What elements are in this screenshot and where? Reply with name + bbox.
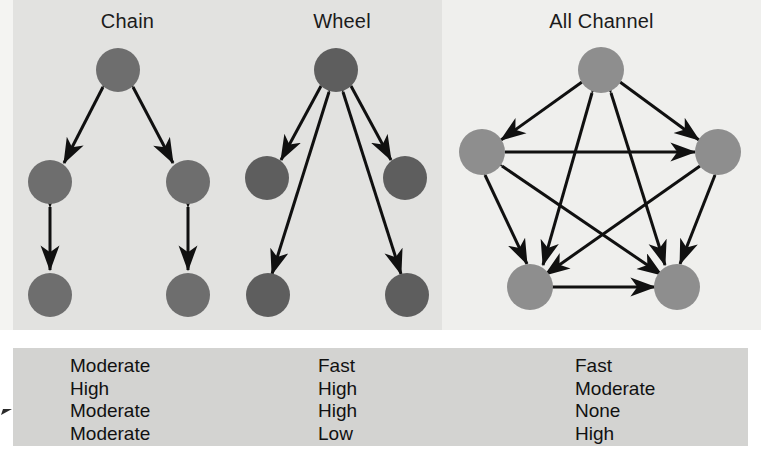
- figure-root: Chain Wheel All Channel: [0, 0, 761, 456]
- wheel-edges: [272, 86, 401, 274]
- diagram-band: Chain Wheel All Channel: [0, 0, 761, 330]
- chain-node-bottom-right: [166, 273, 210, 317]
- chain-node-bottom-left: [28, 273, 72, 317]
- criteria-cell: Moderate: [70, 355, 150, 378]
- chain-nodes: [28, 48, 210, 317]
- criteria-cell: High: [318, 400, 357, 423]
- criteria-cell: Low: [318, 423, 357, 446]
- chain-node-mid-left: [28, 160, 72, 204]
- all-channel-edges: [485, 82, 715, 287]
- wheel-node-left: [245, 156, 289, 200]
- criteria-cell: Fast: [318, 355, 357, 378]
- chain-node-top: [96, 48, 140, 92]
- criteria-cell: Moderate: [575, 378, 655, 401]
- all-channel-node-left: [459, 129, 505, 175]
- criteria-cell: High: [575, 423, 655, 446]
- network-diagrams-svg: [0, 0, 761, 330]
- chain-node-mid-right: [166, 160, 210, 204]
- criteria-cell: Moderate: [70, 423, 150, 446]
- page-edge-caret-icon: [0, 404, 14, 418]
- all-channel-node-bottom-left: [507, 264, 553, 310]
- criteria-cell: High: [318, 378, 357, 401]
- all-channel-node-bottom-right: [654, 264, 700, 310]
- wheel-node-bottom-left: [246, 273, 290, 317]
- criteria-column-chain: Moderate High Moderate Moderate: [70, 355, 150, 445]
- criteria-column-wheel: Fast High High Low: [318, 355, 357, 445]
- criteria-cell: High: [70, 378, 150, 401]
- criteria-cell: None: [575, 400, 655, 423]
- wheel-node-right: [383, 156, 427, 200]
- wheel-node-hub: [314, 48, 358, 92]
- criteria-table: Moderate High Moderate Moderate Fast Hig…: [13, 348, 748, 446]
- all-channel-node-right: [695, 129, 741, 175]
- wheel-nodes: [245, 48, 429, 317]
- criteria-cell: Moderate: [70, 400, 150, 423]
- criteria-cell: Fast: [575, 355, 655, 378]
- criteria-column-all-channel: Fast Moderate None High: [575, 355, 655, 445]
- wheel-node-bottom-right: [385, 273, 429, 317]
- all-channel-nodes: [459, 47, 741, 310]
- all-channel-node-top: [578, 47, 624, 93]
